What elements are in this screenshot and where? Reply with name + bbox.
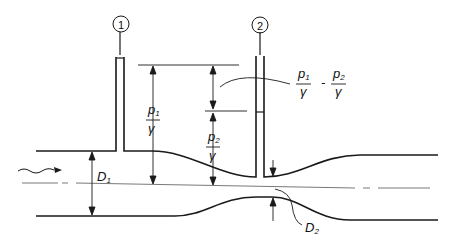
lower-pipe-wall [36,197,438,220]
svg-text:γ: γ [335,84,343,99]
d2-leader [275,189,302,225]
station-2-label: 2 [257,20,263,32]
d2-label: D2 [305,220,319,236]
p1-label: p1 [147,102,160,118]
station-1-label: 1 [118,19,124,31]
diff-p1: p1 [297,66,310,82]
p2-gamma: γ [209,148,217,163]
p1-gamma: γ [148,121,156,136]
centerline [22,183,430,188]
flow-arrowhead-icon [54,167,62,173]
diff-p2: p2 [332,66,345,82]
flow-arrow-icon [18,169,54,173]
upper-pipe-wall [36,56,438,177]
d1-label: D1 [97,169,111,185]
svg-text:γ: γ [300,84,308,99]
p2-label: p2 [207,129,220,145]
venturi-diagram: 1 2 p1 γ p2 γ p1 [0,0,457,249]
minus-sign: - [321,75,326,90]
head-diff-leader [220,78,290,87]
